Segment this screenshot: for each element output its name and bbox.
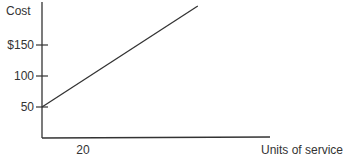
x-axis-line: [42, 137, 270, 138]
cost-line: [42, 6, 198, 107]
x-axis-label: Units of service: [261, 143, 343, 157]
y-tick-label: $150: [7, 38, 34, 52]
x-tick-label: 20: [76, 143, 90, 157]
y-tick-label: 100: [14, 69, 34, 83]
y-tick-label: 50: [21, 100, 35, 114]
y-axis-label: Cost: [6, 4, 31, 18]
cost-chart: 50100$15020 Cost Units of service: [0, 0, 346, 160]
